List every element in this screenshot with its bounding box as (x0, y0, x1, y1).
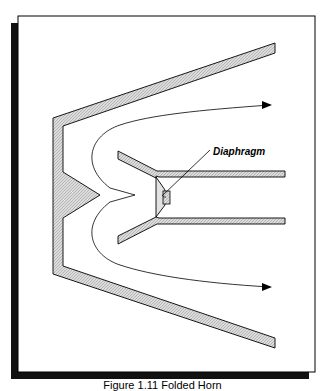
driver-magnet (163, 191, 170, 204)
diaphragm-label: Diaphragm (213, 146, 265, 157)
figure-caption: Figure 1.11 Folded Horn (0, 379, 325, 391)
